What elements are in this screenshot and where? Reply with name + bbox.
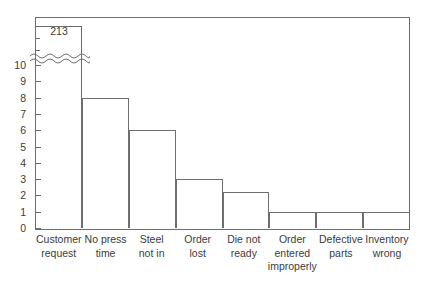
bar-order-entered-improperly xyxy=(269,212,316,228)
y-tick-label-4: 4 xyxy=(0,158,26,168)
y-tick-0 xyxy=(35,228,41,229)
x-label-line: No press xyxy=(84,233,128,247)
y-tick-label-5: 5 xyxy=(0,142,26,152)
bar-order-lost xyxy=(176,179,223,228)
y-tick-label-10: 10 xyxy=(0,60,26,70)
x-label-line: not in xyxy=(130,247,174,261)
x-label-line: Customer xyxy=(36,233,82,247)
bar-no-press-time xyxy=(82,98,129,228)
x-label-line: parts xyxy=(319,247,363,261)
x-label-line: ready xyxy=(222,247,266,261)
x-label-die-not-ready: Die not ready xyxy=(221,233,267,274)
y-tick-label-2: 2 xyxy=(0,190,26,200)
x-label-line: lost xyxy=(176,247,220,261)
y-tick-label-9: 9 xyxy=(0,76,26,86)
x-label-line: Inventory xyxy=(365,233,409,247)
bar-steel-not-in xyxy=(129,130,176,228)
x-label-line: entered xyxy=(268,247,317,261)
x-label-line: Steel xyxy=(130,233,174,247)
x-label-steel-not-in: Steel not in xyxy=(129,233,175,274)
x-label-line: Die not xyxy=(222,233,266,247)
x-axis-category-labels: Customer request No press time Steel not… xyxy=(35,233,410,274)
y-tick-label-1: 1 xyxy=(0,207,26,217)
bar-value-label-customer-request: 213 xyxy=(36,26,82,37)
x-label-line: Order xyxy=(268,233,317,247)
x-label-no-press-time: No press time xyxy=(83,233,129,274)
x-label-order-lost: Order lost xyxy=(175,233,221,274)
x-label-inventory-wrong: Inventory wrong xyxy=(364,233,410,274)
y-tick-label-7: 7 xyxy=(0,109,26,119)
pareto-bar-chart: 012345678910 213 Customer request No pre… xyxy=(0,0,432,284)
y-tick-label-6: 6 xyxy=(0,125,26,135)
y-tick-label-8: 8 xyxy=(0,93,26,103)
bar-defective-parts xyxy=(316,212,363,228)
x-label-line: wrong xyxy=(365,247,409,261)
x-label-customer-request: Customer request xyxy=(35,233,83,274)
bar-inventory-wrong xyxy=(363,212,410,228)
x-label-line: request xyxy=(36,247,82,261)
x-label-line: Order xyxy=(176,233,220,247)
x-label-order-entered-improperly: Order entered improperly xyxy=(267,233,318,274)
x-label-line: improperly xyxy=(268,260,317,274)
axis-break-squiggle xyxy=(30,51,90,65)
bar-die-not-ready xyxy=(223,192,270,228)
y-tick-label-0: 0 xyxy=(0,223,26,233)
y-tick-label-3: 3 xyxy=(0,174,26,184)
x-label-line: Defective xyxy=(319,233,363,247)
x-label-line: time xyxy=(84,247,128,261)
x-label-defective-parts: Defective parts xyxy=(318,233,364,274)
